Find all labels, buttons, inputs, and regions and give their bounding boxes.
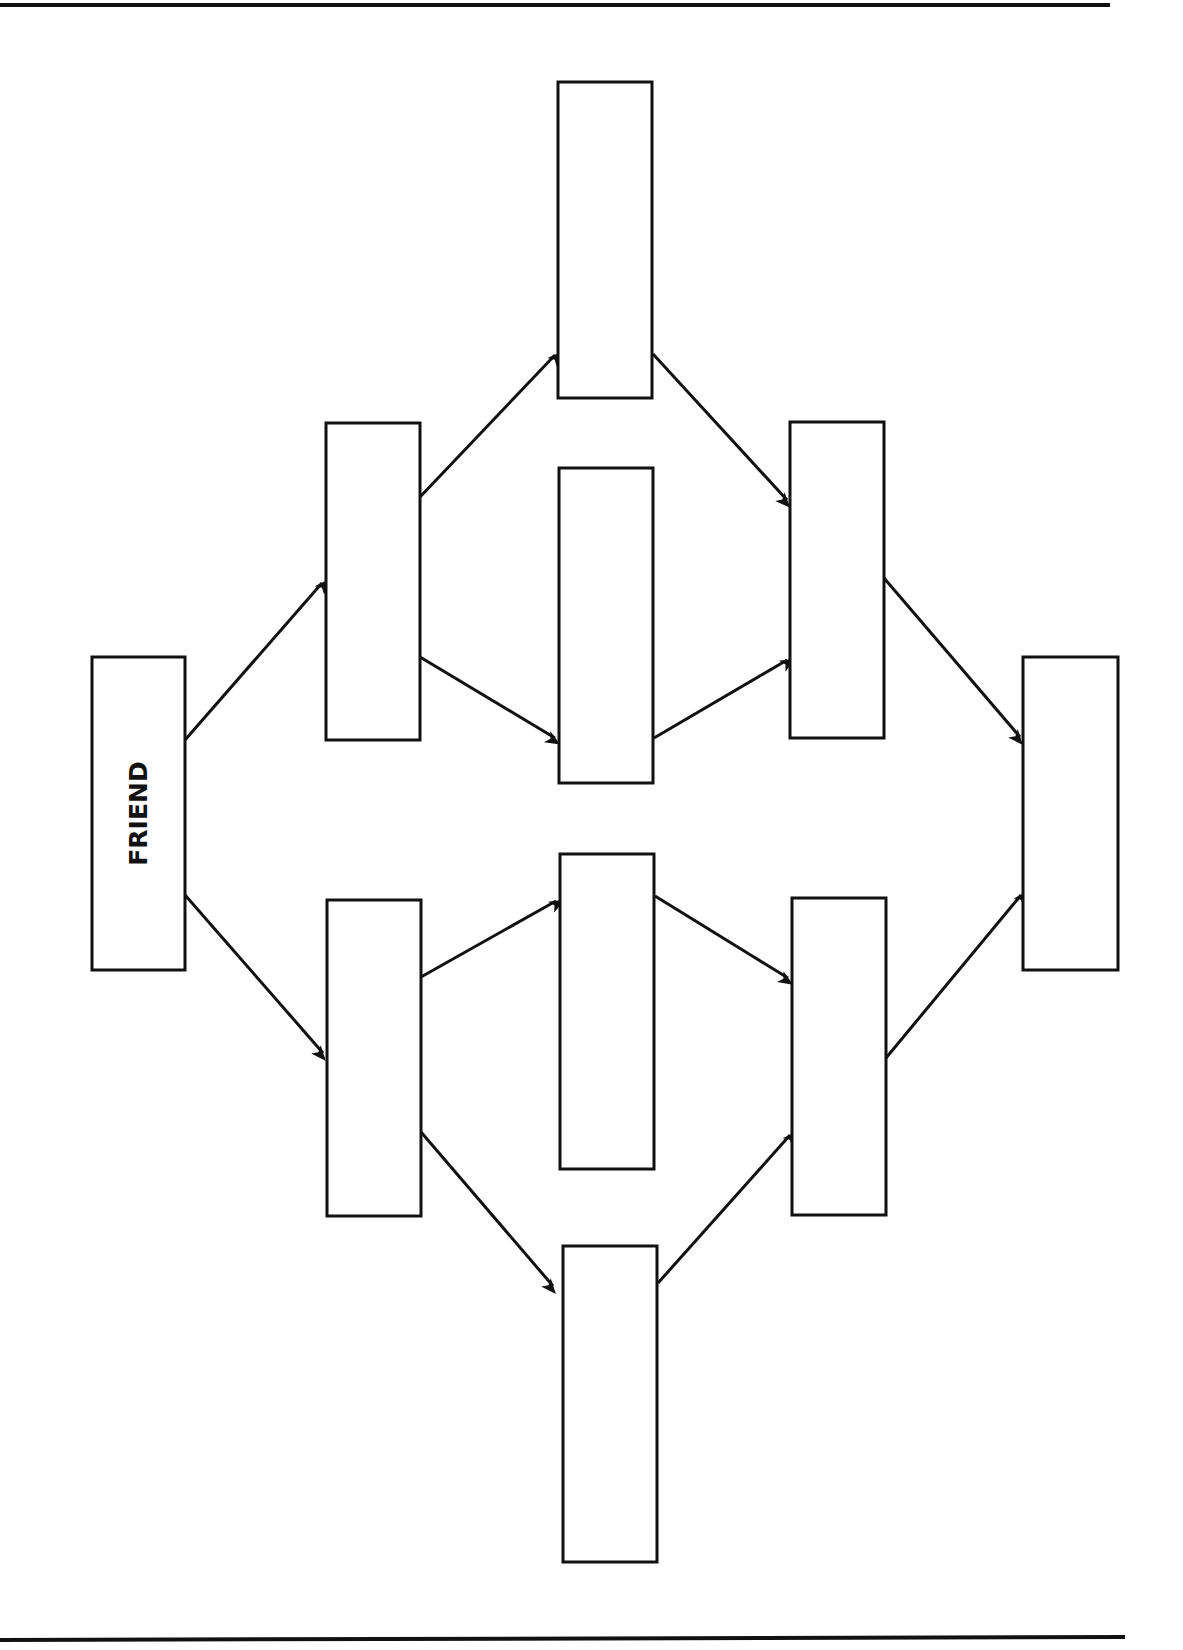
box-level3-2-frame[interactable] — [559, 468, 653, 783]
arrow-friend-to-level2-top — [185, 583, 322, 740]
box-level2-bottom-frame[interactable] — [327, 900, 421, 1216]
arrow-level3-2-to-level4-top — [654, 660, 787, 738]
box-level3-1-frame[interactable] — [558, 82, 652, 398]
box-level3-2[interactable] — [559, 468, 653, 783]
box-friend-label: FRIEND — [124, 761, 153, 865]
arrow-level3-3-to-level4-bottom — [655, 896, 788, 978]
box-level3-1[interactable] — [558, 82, 652, 398]
arrow-level2-top-to-level3-2 — [420, 657, 555, 738]
arrow-level3-4-to-level4-bottom — [658, 1135, 790, 1283]
box-level3-3-frame[interactable] — [560, 854, 654, 1169]
flow-diagram: FRIEND — [0, 0, 1183, 1650]
arrow-level2-top-to-level3-1 — [420, 355, 555, 497]
box-level3-3[interactable] — [560, 854, 654, 1169]
box-level4-top[interactable] — [790, 422, 884, 738]
arrow-level2-bottom-to-level3-4 — [421, 1132, 553, 1286]
arrow-level4-top-to-level5 — [884, 578, 1020, 737]
box-level4-bottom[interactable] — [792, 898, 886, 1215]
box-friend[interactable]: FRIEND — [92, 657, 185, 970]
box-level5[interactable] — [1023, 657, 1118, 970]
box-level2-bottom[interactable] — [327, 900, 421, 1216]
box-level3-4[interactable] — [563, 1246, 657, 1562]
arrow-level2-bottom-to-level3-3 — [421, 901, 556, 977]
arrow-level4-bottom-to-level5 — [886, 895, 1021, 1058]
box-level5-frame[interactable] — [1023, 657, 1118, 970]
box-level3-4-frame[interactable] — [563, 1246, 657, 1562]
box-level2-top-frame[interactable] — [326, 423, 420, 740]
arrow-level3-1-to-level4-top — [653, 354, 787, 500]
arrow-friend-to-level2-bottom — [185, 895, 323, 1053]
box-level4-top-frame[interactable] — [790, 422, 884, 738]
boxes: FRIEND — [92, 82, 1118, 1562]
bottom-rule — [0, 1637, 1125, 1640]
box-level4-bottom-frame[interactable] — [792, 898, 886, 1215]
box-level2-top[interactable] — [326, 423, 420, 740]
